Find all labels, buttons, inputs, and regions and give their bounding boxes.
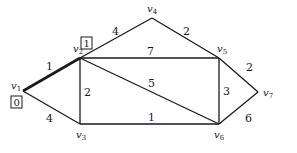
edges-group xyxy=(23,18,258,124)
edge-weight-v2-v5: 7 xyxy=(147,45,154,58)
vertex-label-v7: v7 xyxy=(263,87,273,100)
weighted-graph-diagram: 14247512326 v1v2v3v4v5v6v7 10 xyxy=(0,0,297,153)
edge-weight-v2-v3: 2 xyxy=(84,86,91,99)
edge-weight-v1-v2: 1 xyxy=(46,60,53,73)
vertex-label-v3: v3 xyxy=(76,129,86,142)
vertex-label-v1: v1 xyxy=(11,80,21,93)
edge-weight-v3-v6: 1 xyxy=(148,111,155,124)
boxed-label-v1: 0 xyxy=(14,97,20,108)
edge-weight-labels: 14247512326 xyxy=(46,25,253,125)
vertex-label-v4: v4 xyxy=(147,3,158,16)
edge-weight-v1-v3: 4 xyxy=(46,112,53,125)
vertex-label-v6: v6 xyxy=(214,129,225,142)
edge-weight-v2-v4: 4 xyxy=(112,25,119,38)
edge-weight-v6-v7: 6 xyxy=(245,112,252,125)
edge-v4-v5 xyxy=(152,18,219,58)
edge-weight-v4-v5: 2 xyxy=(183,25,190,38)
edge-weight-v5-v6: 3 xyxy=(223,85,230,98)
boxed-label-v2: 1 xyxy=(84,38,90,49)
vertex-label-v5: v5 xyxy=(217,43,227,56)
edge-weight-v2-v6: 5 xyxy=(148,77,155,90)
edge-weight-v5-v7: 2 xyxy=(246,61,253,74)
